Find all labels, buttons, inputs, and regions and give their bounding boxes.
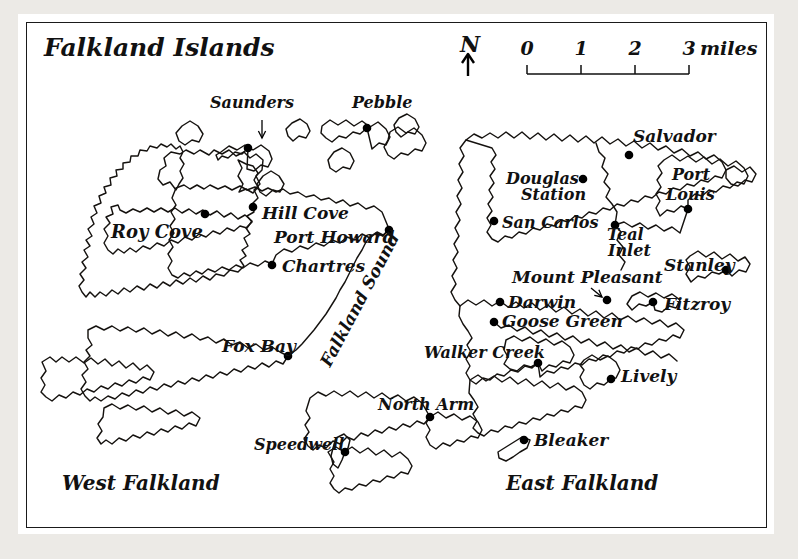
north-arrow-icon (462, 54, 474, 76)
settlement-dot-salvador[interactable] (625, 151, 634, 160)
settlement-label-goose-green: Goose Green (502, 311, 623, 331)
settlement-label-saunders: Saunders (210, 93, 294, 112)
settlement-label-darwin: Darwin (507, 292, 576, 312)
settlement-label-san-carlos: San Carlos (502, 213, 598, 232)
pointer-arrow-icon-mount-pleasant (591, 288, 602, 297)
coastline-north-arm-bay (426, 412, 482, 449)
settlement-label-lively: Lively (620, 366, 678, 386)
settlement-label-fitzroy: Fitzroy (663, 294, 731, 314)
scale-bar-line (527, 65, 689, 74)
coastline-west-falkland-south-tail (97, 404, 200, 444)
falkland-islands-map-figure: SaundersPebbleHill CoveRoy CovePort Howa… (0, 0, 798, 559)
region-label-falkland-sound: Falkland Sound (315, 229, 403, 370)
settlement-label-salvador: Salvador (633, 126, 717, 146)
scale-units-label: miles (700, 37, 758, 59)
settlement-label-north-arm: North Arm (377, 395, 474, 414)
settlement-label-port-louis: Port (671, 165, 711, 184)
settlement-label-douglas-station-line2: Station (521, 185, 586, 204)
settlement-dot-san-carlos[interactable] (490, 217, 499, 226)
settlement-dot-pebble[interactable] (363, 124, 372, 133)
coastline-west-falkland-far-southwest (41, 357, 154, 401)
settlement-label-pebble: Pebble (351, 93, 412, 112)
scale-tick-labels: 0123 (520, 37, 695, 59)
settlement-dot-fitzroy[interactable] (649, 298, 658, 307)
coastline-east-falkland-southeast-lobe (469, 375, 586, 436)
map-canvas: SaundersPebbleHill CoveRoy CovePort Howa… (0, 0, 798, 559)
page-title: Falkland Islands (43, 33, 275, 62)
coastline-group (41, 114, 756, 493)
settlement-label-roy-cove: Roy Cove (110, 221, 203, 242)
settlement-label-mount-pleasant: Mount Pleasant (511, 267, 663, 287)
settlement-label-chartres: Chartres (282, 256, 365, 276)
compass-north-label: N (459, 31, 481, 57)
coastline-lively-island (580, 355, 620, 389)
settlement-label-fox-bay: Fox Bay (221, 336, 297, 356)
settlement-dot-chartres[interactable] (268, 261, 277, 270)
settlement-dot-roy-cove[interactable] (201, 210, 210, 219)
settlement-label-speedwell: Speedwell (254, 435, 344, 454)
scale-bar: 0123 miles (520, 37, 757, 74)
settlement-label-teal-inlet-line2: Inlet (607, 241, 651, 260)
coastline-pebble-east (384, 127, 426, 159)
settlement-dot-lively[interactable] (607, 375, 616, 384)
coastline-small-island-d (394, 114, 419, 137)
coastline-small-island-a (257, 171, 284, 196)
settlement-dot-darwin[interactable] (496, 298, 505, 307)
settlement-dot-saunders[interactable] (244, 144, 253, 153)
settlement-label-bleaker: Bleaker (533, 430, 609, 450)
settlement-label-hill-cove: Hill Cove (261, 203, 349, 223)
coastline-small-island-c (328, 148, 354, 172)
region-label-west-falkland: West Falkland (62, 471, 220, 495)
settlement-dot-mount-pleasant[interactable] (603, 296, 612, 305)
settlement-label-stanley: Stanley (664, 255, 736, 275)
settlement-label-walker-creek: Walker Creek (424, 343, 545, 362)
coastline-east-falkland-far-east (726, 166, 756, 186)
settlement-dot-port-louis[interactable] (684, 205, 693, 214)
compass-rose: N (459, 31, 481, 76)
settlement-label-port-louis-line2: Louis (665, 185, 715, 204)
settlement-dot-douglas-station[interactable] (579, 175, 588, 184)
pointer-arrow-icon-saunders (258, 120, 265, 138)
settlement-label-port-howard: Port Howard (273, 227, 394, 247)
region-label-east-falkland: East Falkland (505, 471, 658, 495)
coastline-east-falkland-north-coast (451, 140, 466, 306)
scale-tick-label-1: 1 (574, 37, 587, 59)
settlement-dot-bleaker[interactable] (520, 436, 529, 445)
scale-tick-label-0: 0 (520, 37, 533, 59)
settlement-dot-hill-cove[interactable] (249, 203, 258, 212)
coastline-small-island-b (286, 119, 310, 141)
coastline-pebble-island (321, 120, 390, 149)
settlement-dot-goose-green[interactable] (490, 318, 499, 327)
scale-tick-label-3: 3 (682, 37, 695, 59)
coastline-keppel-island (176, 121, 203, 145)
scale-tick-label-2: 2 (627, 37, 641, 59)
